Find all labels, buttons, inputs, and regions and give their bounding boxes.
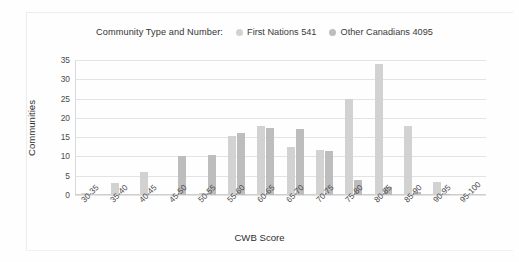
bar-group bbox=[398, 60, 427, 195]
bar-first-nations bbox=[375, 64, 383, 195]
bar-group bbox=[163, 60, 192, 195]
legend-swatch-first-nations bbox=[236, 29, 243, 36]
x-tick-cell: 50-55 bbox=[192, 196, 221, 236]
bar-group bbox=[192, 60, 221, 195]
x-tick-cell: 75-80 bbox=[339, 196, 368, 236]
x-tick-cell: 40-45 bbox=[134, 196, 163, 236]
figure-border-top bbox=[26, 12, 513, 13]
y-tick-label: 30 bbox=[61, 74, 70, 84]
figure-border-bottom bbox=[26, 250, 513, 251]
x-tick-cell: 70-75 bbox=[310, 196, 339, 236]
bar-group bbox=[310, 60, 339, 195]
x-tick-cell: 35-40 bbox=[104, 196, 133, 236]
x-tick-cell: 45-50 bbox=[163, 196, 192, 236]
bar-group bbox=[339, 60, 368, 195]
bar-first-nations bbox=[257, 126, 265, 195]
y-tick-label: 0 bbox=[65, 190, 70, 200]
x-tick-cell: 90-95 bbox=[427, 196, 456, 236]
x-tick-cell: 85-90 bbox=[398, 196, 427, 236]
y-axis-title: Communities bbox=[26, 100, 37, 156]
y-tick-label: 5 bbox=[65, 171, 70, 181]
bar-first-nations bbox=[228, 136, 236, 195]
x-tick-cell: 95-100 bbox=[457, 196, 486, 236]
x-tick-cell: 60-65 bbox=[251, 196, 280, 236]
bar-series-container bbox=[75, 60, 486, 195]
bar-group bbox=[134, 60, 163, 195]
bar-group bbox=[281, 60, 310, 195]
bar-group bbox=[457, 60, 486, 195]
bar-group bbox=[427, 60, 456, 195]
y-tick-label: 10 bbox=[61, 151, 70, 161]
bar-first-nations bbox=[404, 126, 412, 195]
bar-group bbox=[104, 60, 133, 195]
x-tick-cell: 55-60 bbox=[222, 196, 251, 236]
y-tick-label: 20 bbox=[61, 113, 70, 123]
bar-group bbox=[222, 60, 251, 195]
x-tick-cell: 80-85 bbox=[369, 196, 398, 236]
legend-label-first-nations: First Nations 541 bbox=[247, 27, 316, 37]
y-tick-label: 25 bbox=[61, 94, 70, 104]
chart-figure: Community Type and Number: First Nations… bbox=[0, 0, 519, 262]
chart-legend: Community Type and Number: First Nations… bbox=[96, 27, 433, 37]
legend-entry-first-nations: First Nations 541 bbox=[236, 27, 316, 37]
x-axis-ticks: 30-3535-4040-4545-5050-5555-6060-6565-70… bbox=[75, 196, 486, 236]
legend-title: Community Type and Number: bbox=[96, 27, 223, 37]
plot-area: 05101520253035 bbox=[75, 60, 486, 195]
legend-label-other-canadians: Other Canadians 4095 bbox=[340, 27, 432, 37]
y-tick-label: 15 bbox=[61, 132, 70, 142]
x-axis-title: CWB Score bbox=[0, 232, 519, 243]
y-tick-label: 35 bbox=[61, 55, 70, 65]
x-tick-cell: 30-35 bbox=[75, 196, 104, 236]
legend-entry-other-canadians: Other Canadians 4095 bbox=[329, 27, 432, 37]
bar-group bbox=[369, 60, 398, 195]
bar-group bbox=[251, 60, 280, 195]
legend-swatch-other-canadians bbox=[329, 29, 336, 36]
bar-group bbox=[75, 60, 104, 195]
bar-first-nations bbox=[345, 99, 353, 195]
x-tick-cell: 65-70 bbox=[281, 196, 310, 236]
